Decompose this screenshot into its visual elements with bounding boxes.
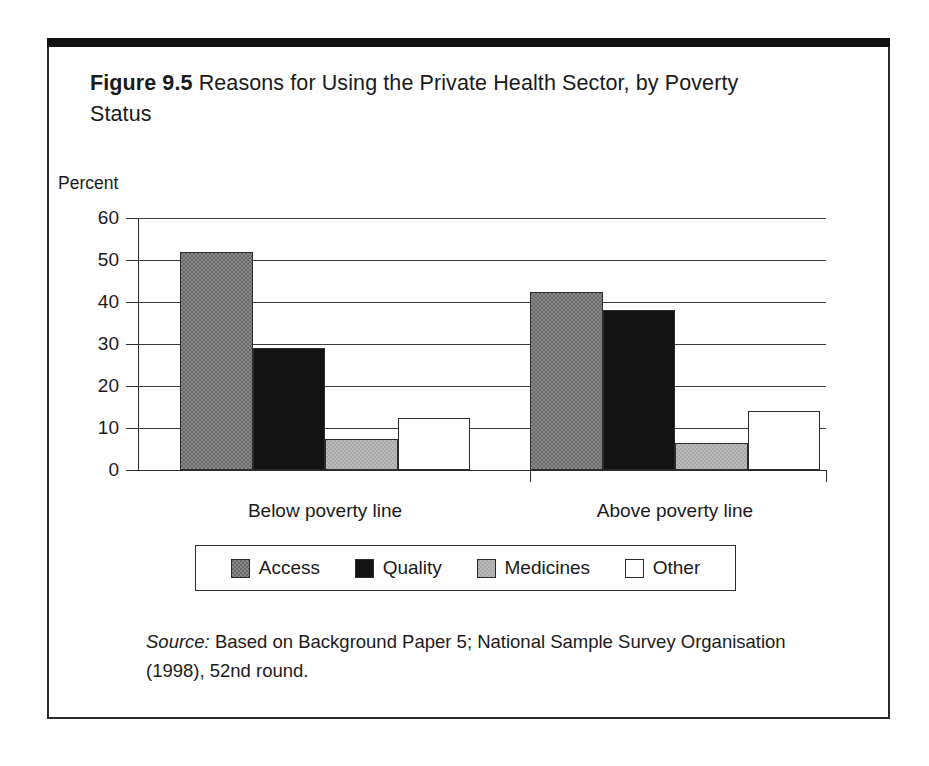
legend-label: Other [653,557,701,579]
chart-legend: AccessQualityMedicinesOther [195,545,736,591]
legend-label: Access [259,557,320,579]
legend-label: Quality [383,557,442,579]
x-axis-line [138,470,826,471]
x-axis-tick [826,470,827,482]
category-label-1: Below poverty line [248,500,402,522]
legend-item-other[interactable]: Other [625,557,701,579]
y-axis-tick [126,470,138,471]
legend-item-medicines[interactable]: Medicines [477,557,591,579]
bar-medicines-group-2 [675,443,748,470]
y-axis-tick-label: 40 [98,291,119,313]
y-axis-tick-label: 30 [98,333,119,355]
bar-other-group-2 [748,411,821,470]
source-label: Source: [146,631,210,652]
legend-swatch-medicines-icon [477,559,496,578]
chart-plot-wrapper: 6050403020100 Below poverty lineAbove po… [58,208,833,476]
y-axis-tick-label: 60 [98,207,119,229]
y-axis-tick-label: 20 [98,375,119,397]
legend-label: Medicines [505,557,591,579]
y-axis-tick [126,260,138,261]
figure-number: Figure 9.5 [90,71,193,95]
y-axis-tick [126,344,138,345]
category-label-2: Above poverty line [597,500,753,522]
bar-quality-group-1 [253,348,326,470]
chart-plot-area: 6050403020100 Below poverty lineAbove po… [138,218,826,470]
legend-swatch-other-icon [625,559,644,578]
x-axis-tick [530,470,531,482]
legend-item-quality[interactable]: Quality [355,557,442,579]
source-text: Based on Background Paper 5; National Sa… [146,631,786,681]
legend-item-access[interactable]: Access [231,557,320,579]
y-axis-tick [126,428,138,429]
bar-medicines-group-1 [325,439,398,471]
y-axis-tick-label: 0 [108,459,119,481]
y-axis-tick-label: 10 [98,417,119,439]
bar-other-group-1 [398,418,471,471]
source-note: Source: Based on Background Paper 5; Nat… [146,628,806,685]
figure-caption: Figure 9.5 Reasons for Using the Private… [90,68,790,130]
gridline [138,218,826,219]
y-axis-tick-label: 50 [98,249,119,271]
legend-swatch-quality-icon [355,559,374,578]
figure-top-rule [47,38,890,47]
bar-access-group-2 [530,292,603,471]
bar-access-group-1 [180,252,253,470]
y-axis-title: Percent [58,173,118,194]
y-axis-tick [126,218,138,219]
bar-quality-group-2 [603,310,676,470]
y-axis-tick [126,302,138,303]
legend-swatch-access-icon [231,559,250,578]
y-axis-tick [126,386,138,387]
